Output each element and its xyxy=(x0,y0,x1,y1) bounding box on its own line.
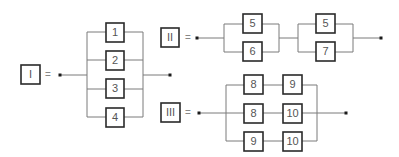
system-i-input-terminal xyxy=(59,74,62,77)
system-ii-output-terminal xyxy=(380,37,383,40)
component-label: 8 xyxy=(244,79,263,90)
system-i-label: I xyxy=(21,69,40,80)
system-iii-wiring xyxy=(199,85,346,141)
component-label: 1 xyxy=(106,27,124,38)
component-label: 8 xyxy=(244,108,263,119)
component-label: 9 xyxy=(244,136,263,147)
system-iii-equals: = xyxy=(185,108,191,118)
component-label: 3 xyxy=(106,83,124,94)
system-iii-output-terminal xyxy=(345,112,348,115)
component-label: 6 xyxy=(243,46,262,57)
system-i-wiring xyxy=(60,32,170,117)
system-ii-input-terminal xyxy=(196,37,199,40)
system-iii-label: III xyxy=(161,107,180,118)
component-label: 10 xyxy=(283,108,302,119)
component-label: 7 xyxy=(316,46,335,57)
system-i-equals: = xyxy=(45,70,51,80)
system-ii-equals: = xyxy=(185,33,191,43)
component-label: 2 xyxy=(106,55,124,66)
component-label: 10 xyxy=(283,136,302,147)
component-label: 9 xyxy=(283,79,302,90)
system-ii-label: II xyxy=(161,32,179,43)
system-iii-input-terminal xyxy=(198,112,201,115)
component-label: 5 xyxy=(243,18,262,29)
component-label: 5 xyxy=(316,18,335,29)
reliability-diagram xyxy=(0,0,399,157)
system-i-output-terminal xyxy=(169,74,172,77)
system-ii-wiring xyxy=(197,24,381,52)
component-label: 4 xyxy=(106,112,124,123)
